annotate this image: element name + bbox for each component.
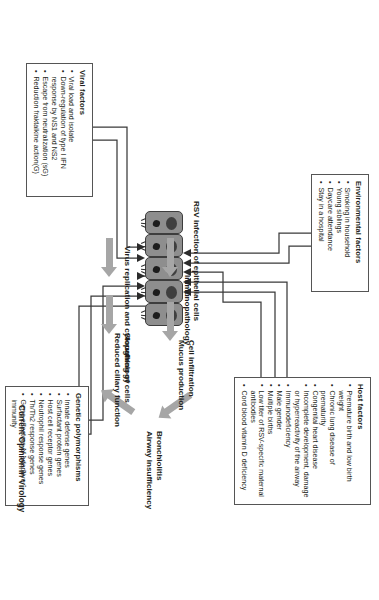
cilia-icon: [142, 219, 147, 229]
box-host-list: Premature birth and low birth weight Chr…: [239, 384, 353, 498]
cilia-icon: [142, 311, 147, 321]
list-item: Escape from neutralization (sG): [41, 70, 50, 190]
inclusion-body-icon: [152, 242, 160, 250]
box-environmental-title: Environmental factors: [354, 181, 364, 285]
list-item: Neutrophil response genes: [36, 393, 45, 499]
connector-viral-a: [93, 127, 139, 247]
epithelial-cell-icon: [145, 280, 183, 303]
connector-environmental-b: [189, 246, 324, 263]
box-viral-factors: Viral factors Viral load and isolate Dow…: [26, 63, 93, 197]
box-environmental-factors: Environmental factors Smoking in househo…: [311, 174, 369, 292]
list-item: Smoking in household: [343, 181, 352, 285]
box-environmental-list: Smoking in household Young siblings Dayc…: [316, 181, 351, 285]
box-viral-list: Viral load and isolate Down-regulation o…: [32, 70, 76, 190]
label-cell-infiltration-line1: Cell infiltration: [186, 340, 196, 410]
epithelial-cell-icon: [145, 234, 183, 257]
label-sloughing-line1: Sloughing of cells: [122, 333, 132, 427]
nucleus-icon: [166, 217, 177, 230]
list-item: Down-regulation of type I IFN response b…: [49, 70, 66, 190]
connector-environmental-a: [189, 233, 324, 253]
cilia-icon: [142, 265, 147, 275]
nucleus-icon: [166, 286, 177, 299]
label-outcome-line1: Bronchiolitis: [154, 431, 164, 509]
list-item: Incomplete development, damage or hyperr…: [292, 384, 309, 498]
label-cell-infiltration-line2: Mucus production: [176, 340, 186, 410]
inclusion-body-icon: [152, 311, 160, 319]
box-viral-title: Viral factors: [78, 70, 88, 190]
list-item: Young siblings: [334, 181, 343, 285]
inclusion-body-icon: [152, 219, 160, 227]
process-arrow-to-cell-infiltration: [167, 302, 174, 332]
list-item: Host cell receptor genes: [45, 393, 54, 499]
list-item: Stay in a hospital: [316, 181, 325, 285]
process-arrow-to-virus-replication: [167, 238, 174, 268]
list-item: Cord blood vitamin D deficiency: [239, 384, 248, 498]
list-item: Immunodeficiency: [284, 384, 293, 498]
list-item: Reduction fraktalkine action(G): [32, 70, 41, 190]
inclusion-body-icon: [152, 288, 160, 296]
connector-viral-b: [93, 140, 139, 258]
label-sloughing: Sloughing of cells Reduced ciliary funct…: [112, 333, 132, 427]
label-cell-infiltration: Cell infiltration Mucus production: [176, 340, 196, 410]
list-item: Low titer of RSV-specific maternal antib…: [248, 384, 265, 498]
process-arrow-to-immunopathology: [106, 295, 113, 325]
box-genetic-title: Genetic polymorphisms: [74, 393, 84, 499]
label-rsv-infection: RSV infection of epithelial cells: [191, 201, 201, 321]
list-item: Surfactant protein genes: [54, 393, 63, 499]
figure-rotation-wrapper: Environmental factors Smoking in househo…: [0, 0, 379, 600]
list-item: Congenital heart disease: [310, 384, 319, 498]
epithelial-cell-icon: [145, 211, 183, 234]
process-arrow-to-sloughing: [106, 238, 113, 268]
list-item: Innate defense genes: [63, 393, 72, 499]
label-sloughing-line2: Reduced ciliary function: [112, 333, 122, 427]
label-outcome: Bronchiolitis Airway insufficiency: [144, 431, 164, 509]
inclusion-body-icon: [152, 265, 160, 273]
list-item: Premature birth and low birth weight: [336, 384, 353, 498]
list-item: Viral load and isolate: [67, 70, 76, 190]
box-host-title: Host factors: [356, 384, 366, 498]
journal-credit: Current Opinion in Virology: [17, 405, 26, 512]
cilia-icon: [142, 242, 147, 252]
figure-canvas: Environmental factors Smoking in househo…: [0, 0, 379, 600]
cilia-icon: [142, 288, 147, 298]
list-item: Daycare attendance: [325, 181, 334, 285]
list-item: Th/Th2 response genes: [27, 393, 36, 499]
list-item: Multiple births: [266, 384, 275, 498]
list-item: Male gender: [275, 384, 284, 498]
label-outcome-line2: Airway insufficiency: [144, 431, 154, 509]
list-item: Chronic lung disease of prematurity: [319, 384, 336, 498]
label-immunopathology: Immunopathology: [182, 275, 192, 345]
epithelial-cell-icon: [145, 303, 183, 326]
box-host-factors: Host factors Premature birth and low bir…: [234, 377, 371, 505]
